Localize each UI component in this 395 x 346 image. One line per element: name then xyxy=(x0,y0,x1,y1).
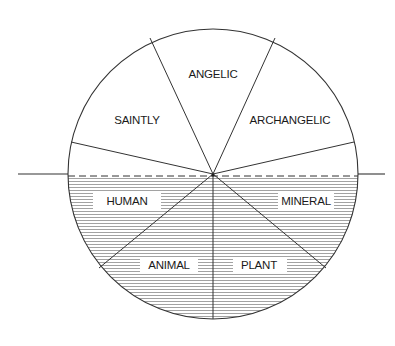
spoke-angelic-archangelic xyxy=(213,38,275,174)
hierarchy-circle-diagram: ANGELIC SAINTLY ARCHANGELIC HUMAN MINERA… xyxy=(0,0,395,346)
label-animal: ANIMAL xyxy=(148,259,190,271)
spoke-right-upper xyxy=(213,142,354,174)
label-human: HUMAN xyxy=(106,195,147,207)
center-point xyxy=(211,173,214,176)
diagram-canvas: ANGELIC SAINTLY ARCHANGELIC HUMAN MINERA… xyxy=(0,0,395,346)
spoke-saintly-angelic xyxy=(150,38,213,174)
label-saintly: SAINTLY xyxy=(114,114,160,126)
label-archangelic: ARCHANGELIC xyxy=(250,114,331,126)
label-angelic: ANGELIC xyxy=(188,68,237,80)
label-mineral: MINERAL xyxy=(281,195,332,207)
spoke-left-upper xyxy=(71,142,213,174)
label-plant: PLANT xyxy=(241,259,277,271)
